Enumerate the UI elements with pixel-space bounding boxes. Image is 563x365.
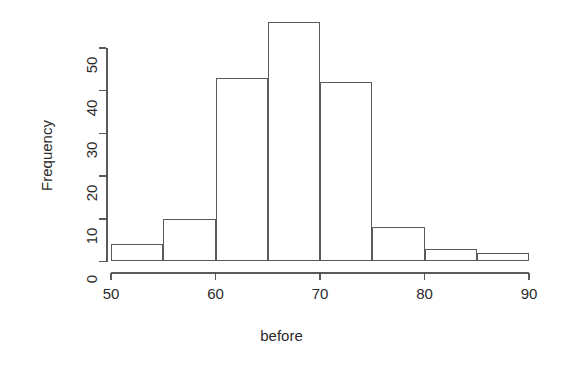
histogram-plot: 01020304050 Frequency 5060708090 before (0, 0, 563, 365)
histogram-bar (163, 219, 215, 262)
histogram-bar (268, 22, 320, 261)
histogram-bar (216, 78, 268, 262)
histogram-bars (0, 0, 563, 365)
histogram-bar (477, 253, 529, 262)
histogram-bar (372, 227, 424, 261)
histogram-bar (425, 249, 477, 262)
histogram-bar (111, 244, 163, 261)
histogram-bar (320, 82, 372, 261)
